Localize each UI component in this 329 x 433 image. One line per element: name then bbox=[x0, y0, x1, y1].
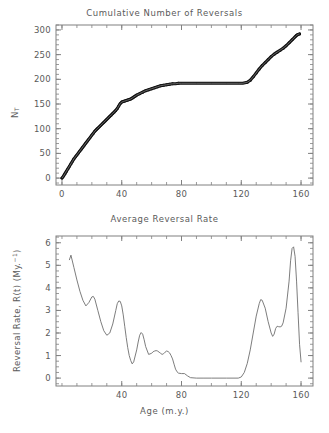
data-series-baseline bbox=[62, 34, 300, 178]
plot-frame bbox=[56, 25, 313, 185]
x-tick-label: 40 bbox=[116, 390, 127, 400]
panel-cumulative-reversals: Cumulative Number of Reversals NT 040801… bbox=[0, 0, 329, 216]
y-tick-label: 0 bbox=[45, 173, 51, 183]
y-tick-label: 3 bbox=[45, 305, 51, 315]
cumulative-reversals-plot: 04080120160050100150200250300 bbox=[0, 0, 329, 216]
x-tick-label: 160 bbox=[292, 189, 309, 199]
panel-reversal-rate: Average Reversal Rate 40801201600123456 bbox=[0, 210, 329, 433]
reversal-rate-plot: 40801201600123456 bbox=[0, 210, 329, 433]
data-series-0 bbox=[69, 247, 301, 378]
y-tick-label: 6 bbox=[45, 238, 51, 248]
y-tick-label: 2 bbox=[45, 328, 51, 338]
y-axis-label-rate: Reversal Rate, R(t) (My.−1) bbox=[11, 249, 22, 372]
y-tick-label: 300 bbox=[34, 25, 51, 35]
y-tick-label: 50 bbox=[40, 148, 51, 158]
y-tick-label: 0 bbox=[45, 373, 51, 383]
y-axis-label-tail: ) bbox=[12, 249, 22, 253]
x-tick-label: 40 bbox=[116, 189, 127, 199]
y-tick-label: 250 bbox=[34, 50, 51, 60]
y-axis-label-text: Reversal Rate, R(t) (My. bbox=[12, 263, 22, 372]
magnetic-reversal-figure: Cumulative Number of Reversals NT 040801… bbox=[0, 0, 329, 433]
y-tick-label: 1 bbox=[45, 351, 51, 361]
y-tick-label: 4 bbox=[45, 283, 51, 293]
y-tick-label: 100 bbox=[34, 124, 51, 134]
x-tick-label: 80 bbox=[176, 189, 187, 199]
x-tick-label: 120 bbox=[233, 189, 250, 199]
y-axis-label-superscript: −1 bbox=[11, 253, 18, 263]
y-tick-label: 200 bbox=[34, 74, 51, 84]
plot-frame bbox=[56, 236, 313, 386]
x-axis-label-age: Age (m.y.) bbox=[0, 406, 329, 416]
x-tick-label: 120 bbox=[233, 390, 250, 400]
x-tick-label: 160 bbox=[292, 390, 309, 400]
data-series-0 bbox=[62, 34, 300, 178]
x-tick-label: 0 bbox=[59, 189, 65, 199]
x-tick-label: 80 bbox=[176, 390, 187, 400]
y-tick-label: 150 bbox=[34, 99, 51, 109]
reversal-event-markers bbox=[60, 32, 301, 179]
y-tick-label: 5 bbox=[45, 260, 51, 270]
